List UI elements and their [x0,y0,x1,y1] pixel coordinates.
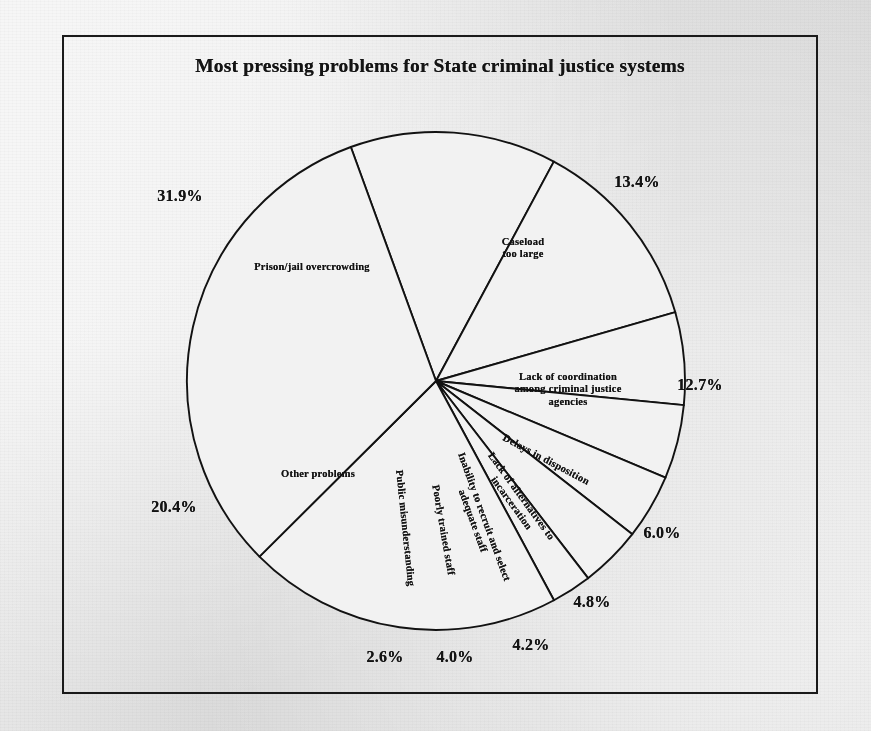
pie-slice-percentage: 13.4% [614,173,660,191]
pie-slice-percentage: 4.8% [573,593,610,611]
pie-slice-percentage: 4.0% [436,648,473,666]
pie-slice-label: Caseload too large [502,236,544,261]
pie-slice-percentage: 12.7% [677,376,723,394]
pie-slice-percentage: 20.4% [151,498,197,516]
pie-slice-label: Lack of coordination among criminal just… [514,371,621,408]
pie-slice-percentage: 6.0% [643,524,680,542]
pie-slice-label: Other problems [281,468,355,480]
pie-slice-percentage: 4.2% [512,636,549,654]
pie-slice-label: Prison/jail overcrowding [254,261,370,273]
pie-slice-percentage: 31.9% [157,187,203,205]
pie-slice-percentage: 2.6% [366,648,403,666]
pie-chart [0,0,871,731]
